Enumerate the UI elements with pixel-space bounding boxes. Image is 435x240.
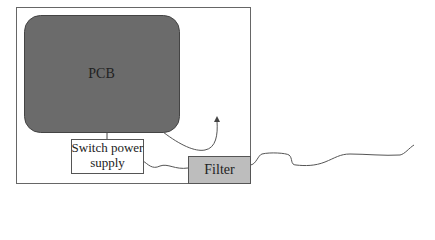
psu-label-line1: Switch power <box>71 140 144 155</box>
pcb-label: PCB <box>24 66 179 82</box>
switch-power-supply-label: Switch power supply <box>71 140 144 170</box>
filter-label: Filter <box>188 162 251 178</box>
output-cable <box>250 145 414 166</box>
psu-label-line2: supply <box>71 155 144 170</box>
